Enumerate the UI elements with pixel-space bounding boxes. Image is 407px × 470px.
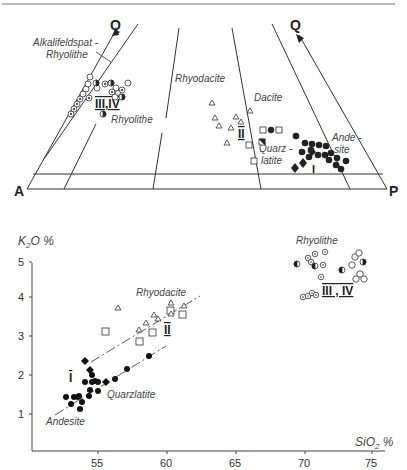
label-rhyodacite-2: Rhyodacite [136,287,186,298]
x-tick-65: 65 [229,457,241,469]
scatter-group-ii: II [164,323,171,337]
leader-line [96,52,111,62]
y-tick-3: 3 [18,330,24,342]
label-ande-2: site [334,144,350,155]
figure: Q Q A P Alkalifeldspat - Rhyolithe Rhyol… [0,0,407,470]
label-quarz-2: latite [261,155,283,166]
label-rhyodacite: Rhyodacite [175,73,225,84]
x-tick-60: 60 [160,457,172,469]
y-axis-title: K2O % [18,234,54,250]
label-ande-1: Ande - [331,132,362,143]
label-dacite: Dacite [254,92,283,103]
x-axis-title: SiO2 % [355,435,394,451]
qap-p: P [389,183,398,199]
label-alkali-2: Rhyolithe [46,49,88,60]
y-tick-1: 1 [18,408,24,420]
scatter-group-i: I [69,371,72,385]
label-andesite: Andesite [45,416,85,427]
y-tick-4: 4 [18,291,24,303]
group-label-i: I [312,163,315,175]
x-tick-55: 55 [91,457,103,469]
qap-q-left: Q [110,17,121,33]
x-tick-75: 75 [365,457,377,469]
label-quarzlatite: Quarzlatite [107,389,156,400]
qap-q-right: Q [290,17,301,33]
scatter-points [63,249,367,412]
label-alkali-1: Alkalifeldspat - [32,37,99,48]
scatter-group-iii-iv: III , IV [322,284,353,298]
y-tick-2: 2 [18,369,24,381]
qap-a: A [14,183,24,199]
y-tick-5: 5 [18,256,24,268]
label-rhyolithe: Rhyolithe [111,114,153,125]
group-label-ii: II [238,127,245,141]
label-rhyolithe-2: Rhyolithe [296,235,338,246]
x-tick-70: 70 [298,457,310,469]
